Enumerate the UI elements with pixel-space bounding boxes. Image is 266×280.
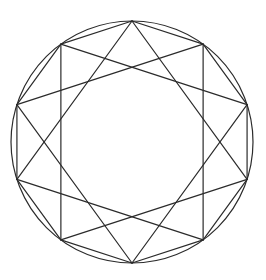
decagram-diagram bbox=[0, 0, 266, 280]
star-edge bbox=[17, 105, 132, 263]
star-edge bbox=[61, 179, 247, 240]
decagon-edge bbox=[17, 179, 61, 240]
circumscribed-circle bbox=[11, 21, 253, 263]
geometric-figure bbox=[0, 0, 266, 280]
star-edge bbox=[132, 105, 247, 263]
star-edge bbox=[132, 21, 247, 179]
decagon-edge bbox=[61, 240, 132, 263]
decagon-edge bbox=[132, 240, 203, 263]
decagon-edge bbox=[203, 179, 247, 240]
decagon-edges bbox=[17, 21, 247, 263]
star-edge bbox=[17, 179, 203, 240]
decagon-edge bbox=[17, 44, 61, 105]
star-edge bbox=[17, 44, 203, 105]
star-edge bbox=[61, 44, 247, 105]
decagon-edge bbox=[203, 44, 247, 105]
star-edge bbox=[17, 21, 132, 179]
decagon-edge bbox=[61, 21, 132, 44]
decagon-edge bbox=[132, 21, 203, 44]
